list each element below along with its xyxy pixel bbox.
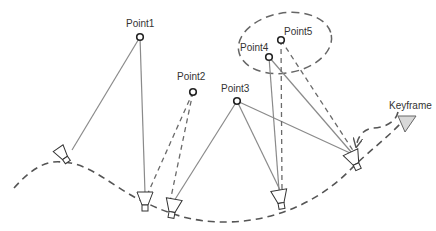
point-2: Point2 bbox=[177, 71, 206, 95]
point-4: Point4 bbox=[240, 42, 272, 60]
solid-rays bbox=[72, 37, 352, 201]
camera-icon-4 bbox=[271, 189, 290, 210]
point-4-label: Point4 bbox=[240, 42, 269, 53]
trajectory-arrowhead-icon bbox=[398, 116, 416, 132]
point-5-label: Point5 bbox=[284, 26, 313, 37]
dashed-rays bbox=[148, 40, 354, 202]
point-2-label: Point2 bbox=[177, 71, 206, 82]
camera-trajectory-diagram: Keyframe Point1 bbox=[0, 0, 436, 231]
camera-icon-2 bbox=[137, 192, 153, 211]
keyframe-pointer-arrow bbox=[357, 112, 398, 143]
camera-trajectory-path bbox=[14, 122, 402, 222]
point-1: Point1 bbox=[126, 18, 155, 40]
camera-icon-5 bbox=[343, 149, 366, 173]
point-1-label: Point1 bbox=[126, 18, 155, 29]
point-3: Point3 bbox=[221, 83, 250, 104]
point-3-label: Point3 bbox=[221, 83, 250, 94]
point-5: Point5 bbox=[278, 26, 313, 43]
keyframe-label: Keyframe bbox=[389, 100, 432, 111]
